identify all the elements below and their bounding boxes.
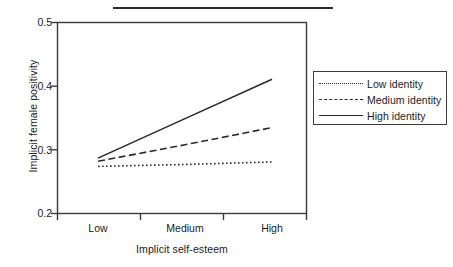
plot-frame: [58, 23, 307, 214]
legend-label-low-identity: Low identity: [367, 78, 423, 90]
legend-label-medium-identity: Medium identity: [367, 94, 441, 106]
legend-swatch-solid-icon: [319, 110, 363, 122]
x-axis-ticks: [58, 214, 307, 221]
series-line-high-identity: [98, 79, 272, 158]
y-axis-ticks: [51, 23, 58, 214]
plot-area: [0, 0, 453, 267]
legend-item-low-identity: Low identity: [319, 76, 423, 92]
figure-container: Implicit female positivity 0.5 0.4 0.3 0…: [0, 0, 453, 267]
legend: Low identity Medium identity High identi…: [313, 71, 447, 125]
legend-swatch-dashed-icon: [319, 94, 363, 106]
legend-item-high-identity: High identity: [319, 108, 425, 124]
legend-swatch-dotted-icon: [319, 78, 363, 90]
legend-label-high-identity: High identity: [367, 110, 425, 122]
legend-item-medium-identity: Medium identity: [319, 92, 441, 108]
series-line-medium-identity: [98, 128, 272, 162]
series-line-low-identity: [98, 162, 272, 166]
